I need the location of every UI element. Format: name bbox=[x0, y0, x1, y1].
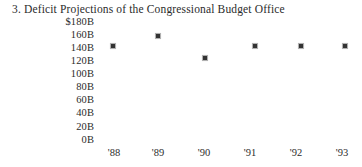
data-point-marker bbox=[343, 44, 347, 48]
data-point-marker bbox=[203, 56, 207, 60]
x-tick-label: '91 bbox=[230, 147, 270, 159]
data-point-marker bbox=[156, 34, 160, 38]
x-tick-label: '90 bbox=[184, 147, 224, 159]
data-point-marker bbox=[299, 44, 303, 48]
x-tick-label: '92 bbox=[276, 147, 316, 159]
plot-area: $180B160B140B120B100B80B60B40B20B0B '88'… bbox=[0, 0, 362, 167]
data-series bbox=[0, 0, 362, 167]
x-tick-label: '89 bbox=[138, 147, 178, 159]
chart-figure: 3. Deficit Projections of the Congressio… bbox=[0, 0, 362, 167]
x-tick-label: '88 bbox=[94, 147, 134, 159]
data-point-marker bbox=[111, 44, 115, 48]
x-tick-label: '93 bbox=[322, 147, 362, 159]
data-point-marker bbox=[253, 44, 257, 48]
x-axis: '88'89'90'91'92'93 bbox=[0, 147, 362, 161]
